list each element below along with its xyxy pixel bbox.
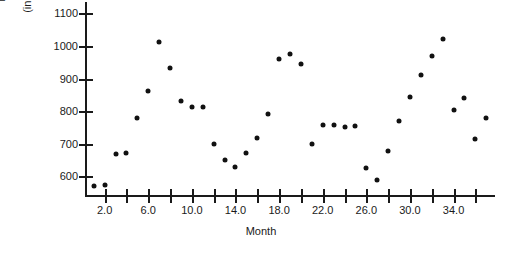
data-point: [124, 150, 129, 155]
y-tick-label: 800: [60, 106, 78, 117]
data-point: [135, 116, 140, 121]
data-point: [364, 166, 369, 171]
data-point: [255, 135, 260, 140]
data-point: [200, 105, 205, 110]
x-axis-label: Month: [0, 225, 522, 237]
data-point: [222, 158, 227, 163]
data-point: [102, 182, 107, 187]
x-tick-label: 2.0: [97, 205, 112, 216]
x-tick-label: 10.0: [181, 205, 202, 216]
y-tick-label: 1100: [54, 8, 78, 19]
y-axis-label-line2: (in thousands): [21, 0, 34, 38]
data-point: [288, 52, 293, 57]
data-point: [233, 164, 238, 169]
x-tick-label: 14.0: [225, 205, 246, 216]
data-point: [440, 36, 445, 41]
data-point: [331, 122, 336, 127]
y-axis-label-line1: Larcenies: [0, 0, 8, 38]
data-point: [451, 107, 456, 112]
scatter-chart-figure: Larcenies (in thousands) 600700800900100…: [0, 0, 522, 256]
data-point: [418, 73, 423, 78]
data-point: [473, 136, 478, 141]
y-axis-label: Larcenies (in thousands): [0, 0, 47, 38]
data-point: [157, 40, 162, 45]
data-point: [91, 183, 96, 188]
data-point: [189, 105, 194, 110]
y-tick-label: 1000: [54, 41, 78, 52]
data-point: [244, 150, 249, 155]
plot-area: [85, 2, 495, 196]
data-point: [309, 141, 314, 146]
data-point: [484, 115, 489, 120]
data-point: [178, 99, 183, 104]
data-point: [168, 66, 173, 71]
x-tick-label: 6.0: [141, 205, 156, 216]
data-point: [113, 151, 118, 156]
data-point: [298, 61, 303, 66]
data-point: [375, 178, 380, 183]
data-point: [342, 124, 347, 129]
data-point: [146, 89, 151, 94]
x-tick-label: 34.0: [443, 205, 464, 216]
data-point: [277, 57, 282, 62]
x-tick-label: 22.0: [312, 205, 333, 216]
data-point: [429, 53, 434, 58]
x-tick-label: 26.0: [356, 205, 377, 216]
y-tick-label: 600: [60, 171, 78, 182]
data-point: [211, 141, 216, 146]
y-tick-label: 700: [60, 138, 78, 149]
data-point: [386, 149, 391, 154]
data-point: [462, 95, 467, 100]
x-tick-label: 30.0: [399, 205, 420, 216]
data-point: [397, 119, 402, 124]
data-point: [353, 123, 358, 128]
y-tick-label: 900: [60, 73, 78, 84]
data-point: [320, 122, 325, 127]
x-tick-label: 18.0: [268, 205, 289, 216]
data-point: [407, 94, 412, 99]
data-point: [266, 112, 271, 117]
